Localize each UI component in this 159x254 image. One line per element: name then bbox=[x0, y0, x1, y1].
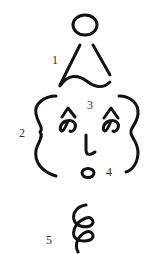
face-left-brace bbox=[36, 96, 56, 176]
stroke-label-4: 4 bbox=[106, 166, 112, 178]
right-eye-no bbox=[103, 120, 118, 131]
mouth-oval bbox=[82, 169, 94, 178]
nose-shi bbox=[86, 135, 95, 154]
stroke-label-3: 3 bbox=[87, 99, 93, 111]
right-eye-caret bbox=[104, 108, 118, 118]
stroke-label-2: 2 bbox=[19, 127, 25, 139]
hat-wave-base bbox=[60, 76, 110, 86]
stroke-label-5: 5 bbox=[46, 234, 52, 246]
body-spiral bbox=[74, 205, 93, 252]
stroke-label-1: 1 bbox=[52, 54, 58, 66]
hat-right-line bbox=[93, 45, 110, 75]
left-eye-no bbox=[60, 120, 75, 131]
face-right-brace bbox=[119, 96, 138, 172]
hat-left-line bbox=[60, 45, 80, 85]
hat-top-circle bbox=[73, 15, 97, 35]
left-eye-caret bbox=[62, 108, 75, 117]
